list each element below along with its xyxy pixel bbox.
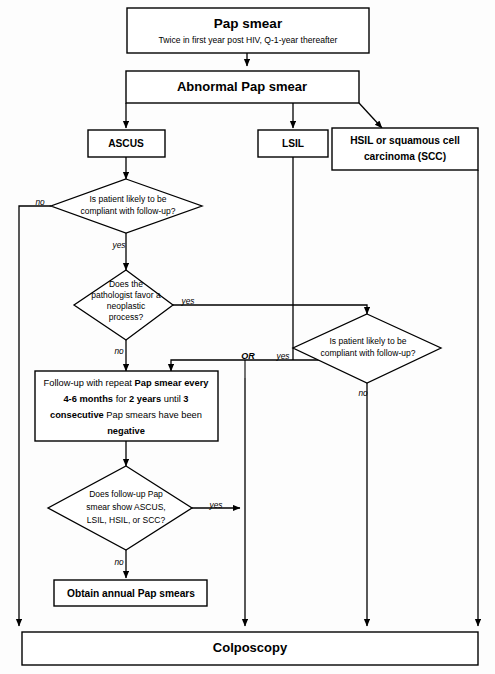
node-follow-up-result-line3: LSIL, HSIL, or SCC? [87,515,166,525]
edge-label-pathologist-yes: yes [181,296,195,306]
fu-l1-a: Follow-up with repeat [44,378,135,388]
node-pathologist-line1: Does the [109,279,143,289]
node-obtain-annual-title: Obtain annual Pap smears [67,588,195,599]
node-ascus-title: ASCUS [108,138,144,149]
fu-l3-a: consecutive [50,410,104,420]
node-follow-up-repeat-line3: consecutive Pap smears have been [50,410,202,420]
node-compliant-left-line1: Is patient likely to be [89,194,166,204]
edge-pathologist-yes-to-compliant-right [173,305,367,314]
node-follow-up-repeat-line2: 4-6 months for 2 years until 3 [63,394,188,404]
node-pathologist-line3: neoplastic [107,301,146,311]
node-follow-up-result-line1: Does follow-up Pap [89,489,163,499]
fu-l2-c: 2 years [129,394,161,404]
node-follow-up-repeat-line4: negative [107,426,145,436]
edge-label-follow-up-yes: yes [209,500,223,510]
fu-l2-b: for [113,394,129,404]
fu-l2-e: 3 [183,394,188,404]
node-follow-up-result-line2: smear show ASCUS, [86,502,165,512]
node-follow-up-repeat-line1: Follow-up with repeat Pap smear every [44,378,210,388]
flowchart-svg: Pap smear Twice in first year post HIV, … [0,0,495,674]
edge-label-compliant-left-no: no [35,197,45,207]
node-compliant-right-line1: Is patient likely to be [329,336,406,346]
node-pathologist-line4: process? [109,312,144,322]
node-compliant-right-line2: compliant with follow-up? [321,348,416,358]
node-colposcopy-title: Colposcopy [213,640,288,655]
node-hsil-scc-line1: HSIL or squamous cell [350,135,460,146]
fu-l3-b: Pap smears have been [104,410,202,420]
fu-l2-d: until [161,394,183,404]
node-pap-smear-title: Pap smear [214,16,283,31]
node-abnormal-pap-smear-title: Abnormal Pap smear [177,79,307,94]
node-compliant-left-line2: compliant with follow-up? [81,206,176,216]
fu-l1-b: Pap smear every [135,378,210,388]
edge-abnormal-to-hsil [359,103,382,128]
edge-label-follow-up-no: no [114,557,124,567]
node-pathologist-line2: pathologist favor a [91,290,161,300]
fu-l2-a: 4-6 months [63,394,113,404]
edge-label-compliant-left-yes: yes [112,240,126,250]
edge-label-pathologist-no: no [114,346,124,356]
node-hsil-scc-line2: carcinoma (SCC) [364,151,446,162]
node-lsil-title: LSIL [282,138,304,149]
edge-label-or: OR [241,351,255,361]
edge-label-compliant-right-no: no [358,388,368,398]
edge-label-compliant-right-yes: yes [276,351,290,361]
node-pap-smear-subtitle: Twice in first year post HIV, Q-1-year t… [159,35,338,45]
flowchart-canvas: Pap smear Twice in first year post HIV, … [0,0,495,674]
